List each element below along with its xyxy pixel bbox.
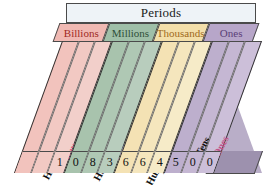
period-band-row: BillionsMillionsThousandsOnes bbox=[56, 23, 256, 42]
digit-value: 0 bbox=[206, 155, 212, 170]
periods-title: Periods bbox=[66, 3, 256, 23]
period-band-millions: Millions bbox=[103, 23, 160, 42]
period-band-label: Millions bbox=[112, 27, 149, 39]
digit-value: 3 bbox=[106, 155, 112, 170]
digit-value: 8 bbox=[90, 155, 96, 170]
period-band-label: Thousands bbox=[157, 27, 205, 39]
digit-value: 6 bbox=[140, 155, 146, 170]
period-band-ones: Ones bbox=[203, 23, 260, 42]
digit-value: 5 bbox=[173, 155, 179, 170]
digit-value: 6 bbox=[123, 155, 129, 170]
period-band-thousands: Thousands bbox=[153, 23, 210, 42]
period-band-label: Ones bbox=[220, 27, 243, 39]
digit-value: 4 bbox=[156, 155, 162, 170]
chart-body: Hundred-billionsTen-billionsBillions1Hun… bbox=[0, 41, 263, 185]
period-band-label: Billions bbox=[64, 27, 99, 39]
place-value-chart: Periods BillionsMillionsThousandsOnes Hu… bbox=[0, 0, 263, 185]
digit-value: 0 bbox=[73, 155, 79, 170]
digit-value: 1 bbox=[56, 155, 62, 170]
period-band-billions: Billions bbox=[53, 23, 110, 42]
digit-value: 0 bbox=[190, 155, 196, 170]
